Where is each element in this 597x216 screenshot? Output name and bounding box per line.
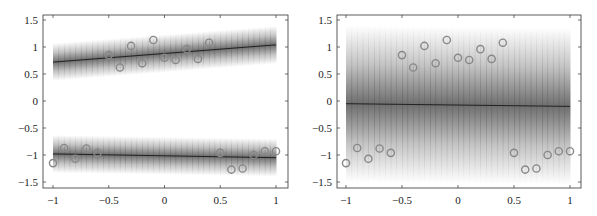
x-tick-label: 1 <box>567 194 573 206</box>
plot-area <box>342 25 573 184</box>
chart-left: −1−0.500.511.510.50−0.5−1−1.5 <box>0 0 298 216</box>
chart-left-panel: −1−0.500.511.510.50−0.5−1−1.5 <box>0 0 298 216</box>
y-tick-label: −1 <box>26 149 38 161</box>
x-tick-label: −1 <box>340 194 352 206</box>
x-tick-label: 0.5 <box>507 194 521 206</box>
x-tick-label: 0 <box>455 194 461 206</box>
y-tick-label: −0.5 <box>18 122 38 134</box>
y-tick-label: 1.5 <box>318 14 332 26</box>
x-tick-label: 0.5 <box>213 194 227 206</box>
y-tick-label: −1.5 <box>312 176 332 188</box>
x-tick-label: 1 <box>273 194 279 206</box>
y-tick-label: −1.5 <box>18 176 38 188</box>
x-tick-label: 0 <box>162 194 168 206</box>
y-tick-label: 0 <box>327 95 333 107</box>
x-tick-label: −0.5 <box>392 194 412 206</box>
chart-right-panel: −1−0.500.511.510.50−0.5−1−1.5 <box>294 0 592 216</box>
plot-area <box>49 26 279 176</box>
y-tick-label: 0.5 <box>24 68 38 80</box>
y-tick-label: 1 <box>327 41 333 53</box>
y-tick-label: 0.5 <box>318 68 332 80</box>
y-tick-label: 0 <box>33 95 39 107</box>
y-tick-label: 1.5 <box>24 14 38 26</box>
chart-right: −1−0.500.511.510.50−0.5−1−1.5 <box>294 0 597 216</box>
y-tick-label: 1 <box>33 41 39 53</box>
x-tick-label: −0.5 <box>99 194 119 206</box>
x-tick-label: −1 <box>47 194 59 206</box>
y-tick-label: −1 <box>320 149 332 161</box>
y-tick-label: −0.5 <box>312 122 332 134</box>
